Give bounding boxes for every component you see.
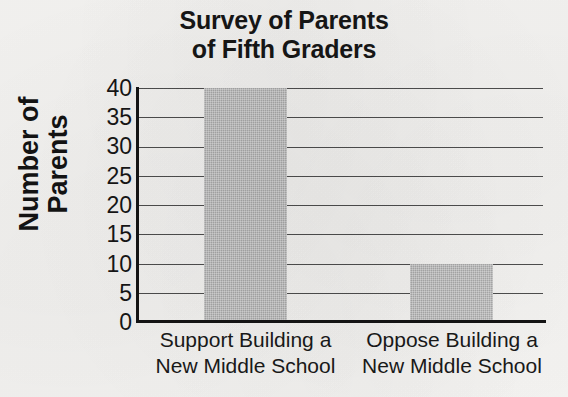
gridline-30 <box>138 147 543 148</box>
y-tick-label-10: 10 <box>86 253 132 276</box>
y-tick-label-20: 20 <box>86 194 132 217</box>
y-axis-title: Number of Parents <box>0 59 88 269</box>
plot-area <box>138 88 543 322</box>
x-axis-label-oppose: Oppose Building a New Middle School <box>336 327 568 379</box>
gridline-40 <box>138 88 543 89</box>
y-tick-label-25: 25 <box>86 165 132 188</box>
y-tick-label-40: 40 <box>86 77 132 100</box>
y-axis-tick-labels: 40 35 30 25 20 15 10 5 0 <box>84 0 132 397</box>
x-axis-label-oppose-line-2: New Middle School <box>336 353 568 379</box>
y-axis-title-line-2: Parents <box>44 97 73 232</box>
x-axis-label-support: Support Building a New Middle School <box>128 327 363 379</box>
y-tick-label-15: 15 <box>86 223 132 246</box>
x-axis-label-support-line-2: New Middle School <box>128 353 363 379</box>
gridline-25 <box>138 176 543 177</box>
x-axis-label-support-line-1: Support Building a <box>128 327 363 353</box>
y-axis-line <box>136 87 139 323</box>
gridline-20 <box>138 205 543 206</box>
bar-chart-figure: Survey of Parents of Fifth Graders Numbe… <box>0 0 568 397</box>
bar-oppose-building <box>410 264 493 322</box>
gridline-35 <box>138 117 543 118</box>
y-tick-label-5: 5 <box>86 282 132 305</box>
gridline-15 <box>138 234 543 235</box>
y-tick-label-30: 30 <box>86 135 132 158</box>
x-axis-label-oppose-line-1: Oppose Building a <box>336 327 568 353</box>
x-axis-line <box>136 320 546 323</box>
y-tick-label-35: 35 <box>86 106 132 129</box>
y-tick-label-0: 0 <box>86 311 132 334</box>
bar-support-building <box>204 88 287 322</box>
y-axis-title-line-1: Number of <box>15 97 44 232</box>
